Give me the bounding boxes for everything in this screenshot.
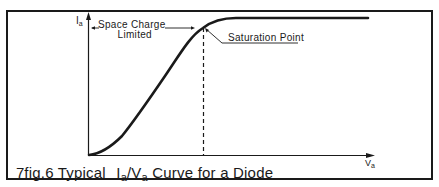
saturation-point-annotation: Saturation Point	[228, 32, 304, 43]
caption-suffix: Curve for a Diode	[152, 164, 273, 181]
caption-var-v-sub: a	[142, 171, 148, 183]
space-charge-annotation: Space Charge Limited	[98, 20, 166, 40]
figure-caption: 7fig.6 Typical Ia/Va Curve for a Diode	[16, 164, 273, 183]
y-axis-arrow-icon	[86, 12, 91, 20]
caption-var-v: V	[131, 164, 141, 181]
caption-fig-label: fig.6	[24, 164, 53, 181]
x-axis-label-sub: a	[371, 162, 375, 169]
space-charge-line2: Limited	[98, 30, 166, 40]
saturation-leader-arrowhead-icon	[205, 28, 209, 33]
y-axis-label: Ia	[76, 15, 83, 27]
space-charge-left-arrowhead-icon	[91, 26, 95, 29]
x-axis-label: Va	[365, 158, 375, 169]
space-charge-right-arrowhead-icon	[191, 26, 195, 29]
y-axis-label-sub: a	[79, 20, 83, 27]
caption-prefix: Typical	[58, 164, 106, 181]
